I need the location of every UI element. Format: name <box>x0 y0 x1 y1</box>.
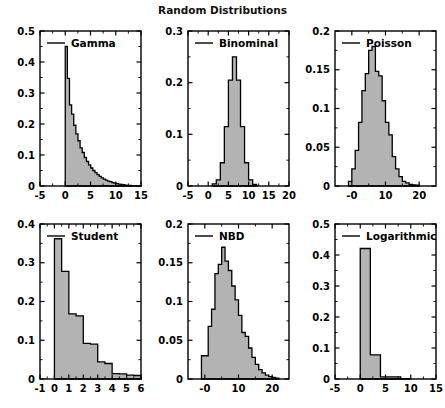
xtick-label: -5 <box>34 190 45 201</box>
xtick-label: -0 <box>346 190 357 201</box>
xtick-label: 6 <box>138 383 145 394</box>
ytick-label: 0.4 <box>312 250 330 261</box>
legend-label-binominal: Binominal <box>219 37 278 49</box>
ytick-label: 0.1 <box>312 103 330 114</box>
ytick-label: 0.3 <box>165 26 183 37</box>
histogram-gamma <box>65 47 141 187</box>
panel-binominal: 00.10.20.3-505101520Binominal <box>165 26 296 201</box>
histogram-logarithmic <box>360 248 411 379</box>
xtick-label: 4 <box>109 383 116 394</box>
ytick-label: 0.1 <box>165 296 183 307</box>
ytick-label: 0.3 <box>17 88 35 99</box>
ytick-label: 0.05 <box>158 335 183 346</box>
xtick-label: 0 <box>62 190 69 201</box>
legend-label-logarithmic: Logarithmic <box>366 230 437 242</box>
xtick-label: 20 <box>412 190 426 201</box>
ytick-label: 0 <box>176 374 183 385</box>
xtick-label: 10 <box>242 190 256 201</box>
ytick-label: 0.5 <box>312 219 330 230</box>
xtick-label: 5 <box>382 383 389 394</box>
legend-label-student: Student <box>71 230 118 242</box>
panel-gamma: 00.10.20.30.40.5-5051015Gamma <box>17 26 148 201</box>
figure-title: Random Distributions <box>158 4 287 16</box>
legend-label-gamma: Gamma <box>71 37 116 49</box>
histogram-poisson <box>348 47 419 187</box>
xtick-label: 20 <box>282 190 296 201</box>
xtick-label: 0 <box>51 383 58 394</box>
xtick-label: 0 <box>205 190 212 201</box>
ytick-label: 0.1 <box>17 335 35 346</box>
xtick-label: -5 <box>182 190 193 201</box>
ytick-label: 0.15 <box>305 64 330 75</box>
xtick-label: -1 <box>34 383 45 394</box>
ytick-label: 0.4 <box>17 219 35 230</box>
ytick-label: 0.3 <box>17 257 35 268</box>
ytick-label: 0.2 <box>17 119 35 130</box>
xtick-label: 15 <box>134 190 148 201</box>
xtick-label: 10 <box>109 190 123 201</box>
ytick-label: 0.15 <box>158 257 183 268</box>
xtick-label: 10 <box>379 190 393 201</box>
xtick-label: 15 <box>429 383 443 394</box>
xtick-label: 15 <box>262 190 276 201</box>
ytick-label: 0.1 <box>165 129 183 140</box>
ytick-label: 0.5 <box>17 26 35 37</box>
panel-nbd: 00.050.10.150.2-01020NBD <box>158 219 289 394</box>
ytick-label: 0.3 <box>312 281 330 292</box>
xtick-label: 10 <box>232 383 246 394</box>
ytick-label: 0.2 <box>312 312 330 323</box>
ytick-label: 0.05 <box>305 142 330 153</box>
ytick-label: 0 <box>323 181 330 192</box>
panel-poisson: 00.050.10.150.2-01020Poisson <box>305 26 436 201</box>
xtick-label: 2 <box>80 383 87 394</box>
histogram-binominal <box>212 57 256 186</box>
histogram-student <box>54 239 141 379</box>
ytick-label: 0.2 <box>165 219 183 230</box>
xtick-label: 5 <box>123 383 130 394</box>
axes-frame <box>40 31 141 186</box>
panel-logarithmic: 00.10.20.30.40.5-5051015Logarithmic <box>312 219 443 394</box>
ytick-label: 0.4 <box>17 57 35 68</box>
xtick-label: 5 <box>225 190 232 201</box>
ytick-label: 0.2 <box>312 26 330 37</box>
xtick-label: 5 <box>87 190 94 201</box>
legend-label-nbd: NBD <box>219 230 245 242</box>
figure-canvas: Random Distributions00.10.20.30.40.5-505… <box>0 0 445 408</box>
histogram-nbd <box>201 247 278 379</box>
ytick-label: 0.1 <box>17 150 35 161</box>
axes-frame <box>335 224 436 379</box>
xtick-label: -5 <box>329 383 340 394</box>
legend-label-poisson: Poisson <box>366 37 412 49</box>
xtick-label: 1 <box>65 383 72 394</box>
ytick-label: 0.2 <box>165 77 183 88</box>
panel-student: 00.10.20.30.4-10123456Student <box>17 219 144 394</box>
distributions-figure: Random Distributions00.10.20.30.40.5-505… <box>0 0 445 408</box>
ytick-label: 0.1 <box>312 343 330 354</box>
xtick-label: -0 <box>199 383 210 394</box>
xtick-label: 3 <box>94 383 101 394</box>
xtick-label: 0 <box>357 383 364 394</box>
ytick-label: 0.2 <box>17 296 35 307</box>
xtick-label: 10 <box>404 383 418 394</box>
xtick-label: 20 <box>265 383 279 394</box>
